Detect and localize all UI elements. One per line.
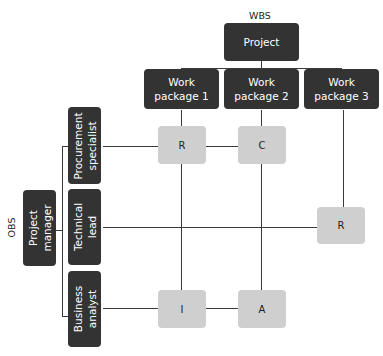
technical-lead-label: Technical lead xyxy=(71,203,99,251)
wbs-label: WBS xyxy=(249,10,271,21)
work-package-3-box[interactable]: Work package 3 xyxy=(304,69,379,109)
obs-technical-lead-box[interactable]: Technical lead xyxy=(68,189,101,265)
wbs-project-label: Project xyxy=(244,35,280,49)
technical-row-line xyxy=(103,227,318,228)
obs-label: OBS xyxy=(6,218,17,238)
cell-procurement-wp2[interactable]: C xyxy=(238,126,286,164)
obs-procurement-specialist-box[interactable]: Procurement specialist xyxy=(68,107,101,184)
work-package-2-box[interactable]: Work package 2 xyxy=(224,69,299,109)
wbs-project-box[interactable]: Project xyxy=(224,23,299,61)
wp3-column-line xyxy=(343,110,344,208)
cell-technical-wp3[interactable]: R xyxy=(317,207,365,244)
cell-procurement-wp1[interactable]: R xyxy=(158,126,206,164)
procurement-specialist-label: Procurement specialist xyxy=(71,112,99,179)
work-package-1-label: Work package 1 xyxy=(154,75,208,103)
business-analyst-label: Business analyst xyxy=(71,286,99,332)
work-package-1-box[interactable]: Work package 1 xyxy=(144,69,219,109)
work-package-3-label: Work package 3 xyxy=(314,75,368,103)
cell-analyst-wp2[interactable]: A xyxy=(238,290,286,328)
obs-project-manager-label: Project manager xyxy=(26,204,54,251)
obs-vertical-bar xyxy=(62,146,63,316)
cell-analyst-wp1[interactable]: I xyxy=(158,290,206,328)
obs-business-analyst-box[interactable]: Business analyst xyxy=(68,271,101,347)
work-package-2-label: Work package 2 xyxy=(234,75,288,103)
obs-project-manager-box[interactable]: Project manager xyxy=(23,190,56,266)
